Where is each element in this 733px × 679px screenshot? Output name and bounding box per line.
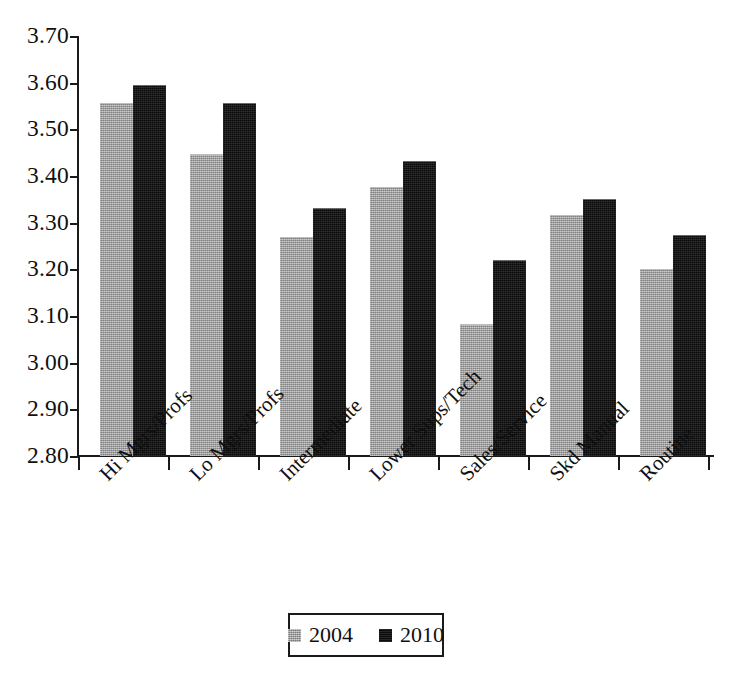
- x-axis-tick-mark: [348, 457, 350, 470]
- legend-entry-2004: 2004: [288, 624, 353, 646]
- x-axis-tick-mark: [528, 457, 530, 470]
- x-axis-tick-mark: [708, 457, 710, 470]
- bar-2004-hi-mgrs-profs: [100, 103, 133, 456]
- y-axis-tick-label: 3.60: [27, 70, 69, 94]
- y-axis-tick-label: 3.50: [27, 117, 69, 141]
- y-axis-tick-mark: [70, 129, 78, 131]
- bar-2004-lower-sups-tech: [370, 187, 403, 456]
- bar-2004-skd-manual: [550, 215, 583, 456]
- legend-label-2004: 2004: [309, 624, 353, 646]
- legend-entry-2010: 2010: [379, 624, 444, 646]
- y-axis-tick-mark: [70, 83, 78, 85]
- bar-chart: 3.703.603.503.403.303.203.103.002.902.80…: [0, 0, 733, 679]
- y-axis-tick-mark: [70, 269, 78, 271]
- legend-label-2010: 2010: [400, 624, 444, 646]
- x-axis-tick-mark: [168, 457, 170, 470]
- bar-group: [528, 36, 618, 456]
- bar-group: [78, 36, 168, 456]
- y-axis-tick-mark: [70, 36, 78, 38]
- gray-swatch-icon: [288, 629, 301, 642]
- y-axis-tick-label: 3.20: [27, 257, 69, 281]
- bar-group: [618, 36, 708, 456]
- bar-group: [348, 36, 438, 456]
- y-axis-tick-mark: [70, 409, 78, 411]
- x-axis-tick-mark: [618, 457, 620, 470]
- x-axis-tick-mark: [258, 457, 260, 470]
- bar-2004-lo-mgrs-profs: [190, 154, 223, 456]
- y-axis-tick-label: 2.80: [27, 444, 69, 468]
- y-axis-tick-label: 3.70: [27, 24, 69, 48]
- y-axis-tick-mark: [70, 316, 78, 318]
- bar-2004-intermediate: [280, 237, 313, 456]
- y-axis-tick-mark: [70, 456, 78, 458]
- x-axis-tick-mark: [78, 457, 80, 470]
- y-axis-tick-label: 3.40: [27, 164, 69, 188]
- y-axis-tick-mark: [70, 223, 78, 225]
- bar-2004-routine: [640, 269, 673, 456]
- y-axis-tick-label: 3.10: [27, 304, 69, 328]
- x-axis-tick-mark: [438, 457, 440, 470]
- bar-2010-routine: [673, 235, 706, 456]
- black-swatch-icon: [379, 629, 392, 642]
- y-axis-tick-mark: [70, 363, 78, 365]
- y-axis-tick-label: 3.00: [27, 350, 69, 374]
- y-axis-tick-label: 2.90: [27, 397, 69, 421]
- chart-legend: 2004 2010: [288, 613, 444, 657]
- y-axis-tick-mark: [70, 176, 78, 178]
- y-axis-tick-label: 3.30: [27, 210, 69, 234]
